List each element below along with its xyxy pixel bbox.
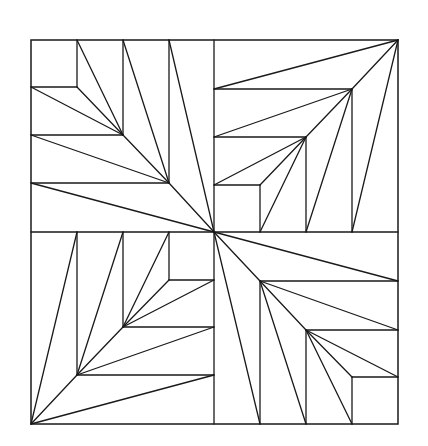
quilt-block-diagram [0, 0, 428, 446]
